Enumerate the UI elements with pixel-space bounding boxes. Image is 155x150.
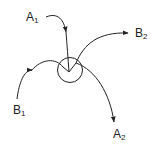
label-b2-sub: 2: [143, 32, 147, 41]
label-a2-sub: 2: [121, 133, 125, 142]
interaction-diagram: [0, 0, 155, 150]
center-vertex: [63, 63, 76, 72]
label-a1: A1: [26, 11, 38, 25]
label-b2-letter: B: [135, 26, 143, 40]
label-b2: B2: [135, 27, 147, 41]
path-b1-to-center: [17, 70, 32, 99]
path-center-to-b2: [76, 33, 128, 63]
path-center-to-a2: [76, 63, 114, 122]
path-a1-to-center: [66, 32, 69, 72]
label-b1-sub: 1: [21, 109, 25, 118]
path-a1-arrow: [46, 15, 66, 32]
label-a2-letter: A: [113, 127, 121, 141]
label-a1-sub: 1: [34, 16, 38, 25]
label-a2: A2: [113, 128, 125, 142]
label-a1-letter: A: [26, 10, 34, 24]
label-b1-letter: B: [13, 103, 21, 117]
label-b1: B1: [13, 104, 25, 118]
